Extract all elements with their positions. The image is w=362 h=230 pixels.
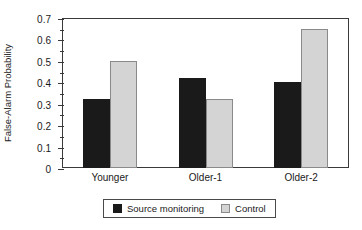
y-tick-label: 0.6 xyxy=(37,36,51,46)
bar-younger-source-monitoring xyxy=(83,99,110,168)
y-tick-label: 0.7 xyxy=(37,15,51,25)
bar-younger-control xyxy=(110,61,137,168)
bar-chart-figure: False-Alarm Probability 00.10.20.30.40.5… xyxy=(0,0,362,230)
y-tick-label: 0.4 xyxy=(37,79,51,89)
y-tick-major: 0 xyxy=(58,169,64,170)
bar-older-1-source-monitoring xyxy=(179,78,206,168)
legend-entry-control: Control xyxy=(221,203,266,214)
y-tick-label: 0.2 xyxy=(37,122,51,132)
legend-swatch-icon xyxy=(221,204,230,213)
x-category-label-younger: Younger xyxy=(91,172,128,184)
bar-older-1-control xyxy=(206,99,233,168)
y-tick-label: 0 xyxy=(45,165,51,175)
y-tick-label: 0.1 xyxy=(37,144,51,154)
y-axis-title: False-Alarm Probability xyxy=(0,18,16,168)
bar-older-2-source-monitoring xyxy=(274,82,301,168)
y-tick-label: 0.3 xyxy=(37,101,51,111)
legend-label: Control xyxy=(235,203,266,214)
bars-layer xyxy=(62,18,349,168)
bar-older-2-control xyxy=(301,29,328,168)
chart-legend: Source monitoringControl xyxy=(103,199,276,218)
y-tick-label: 0.5 xyxy=(37,58,51,68)
x-category-label-older-1: Older-1 xyxy=(189,172,222,184)
x-category-label-older-2: Older-2 xyxy=(284,172,317,184)
legend-entry-source-monitoring: Source monitoring xyxy=(113,203,204,214)
legend-swatch-icon xyxy=(113,204,122,213)
legend-label: Source monitoring xyxy=(127,203,204,214)
